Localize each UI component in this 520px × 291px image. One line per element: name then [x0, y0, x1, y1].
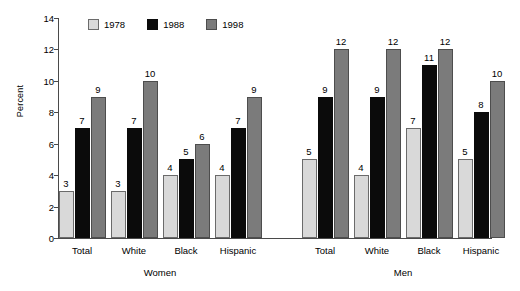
legend-item: 1998 [206, 19, 243, 30]
x-category-label: White [365, 245, 389, 256]
bar [474, 112, 489, 238]
x-category-label: Hispanic [463, 245, 499, 256]
y-tick-label: 12 [32, 44, 54, 55]
bar-value-label: 7 [79, 115, 84, 126]
y-axis-ticks: 02468101214 [29, 0, 54, 291]
bar-value-label: 4 [358, 162, 363, 173]
bar [179, 159, 194, 238]
bar [111, 191, 126, 238]
x-group-label: Men [394, 267, 412, 278]
bar-value-label: 3 [63, 178, 68, 189]
legend-label: 1978 [104, 20, 125, 30]
bar [59, 191, 74, 238]
x-axis-line [58, 238, 492, 239]
legend-label: 1998 [222, 20, 243, 30]
bar-value-label: 10 [492, 68, 503, 79]
y-axis-line [58, 18, 59, 239]
bar-value-label: 12 [336, 36, 347, 47]
bar-value-label: 5 [306, 146, 311, 157]
bar-value-label: 11 [424, 52, 434, 63]
y-tick-label: 6 [32, 138, 54, 149]
bar-value-label: 4 [167, 162, 172, 173]
bar [75, 128, 90, 238]
bar [143, 81, 158, 238]
x-category-label: Total [315, 245, 335, 256]
legend-item: 1978 [88, 19, 125, 30]
bar [318, 97, 333, 238]
plot-area [58, 18, 492, 238]
legend-swatch-icon [206, 19, 217, 30]
legend-label: 1988 [163, 20, 184, 30]
bar [127, 128, 142, 238]
bar [354, 175, 369, 238]
x-category-label: Hispanic [220, 245, 256, 256]
bar [163, 175, 178, 238]
bar-value-label: 5 [462, 146, 467, 157]
bar-value-label: 6 [199, 131, 204, 142]
legend-item: 1988 [147, 19, 184, 30]
bar-value-label: 4 [219, 162, 224, 173]
bar [386, 49, 401, 238]
bar [422, 65, 437, 238]
y-tick-label: 2 [32, 201, 54, 212]
bar [370, 97, 385, 238]
bar-chart: Percent 02468101214 197819881998 379Tota… [0, 0, 520, 291]
bar-value-label: 9 [251, 84, 256, 95]
y-tick-label: 14 [32, 13, 54, 24]
bar-value-label: 3 [115, 178, 120, 189]
bar-value-label: 9 [322, 84, 327, 95]
legend-swatch-icon [147, 19, 158, 30]
bar-value-label: 9 [374, 84, 379, 95]
bar [406, 128, 421, 238]
bar-value-label: 7 [235, 115, 240, 126]
bar [438, 49, 453, 238]
y-tick-label: 8 [32, 107, 54, 118]
bar-value-label: 12 [440, 36, 451, 47]
bar-value-label: 9 [95, 84, 100, 95]
bar [231, 128, 246, 238]
y-tick-label: 0 [32, 233, 54, 244]
bar-value-label: 7 [410, 115, 415, 126]
x-category-label: Black [417, 245, 440, 256]
bar-value-label: 5 [183, 146, 188, 157]
bar-value-label: 8 [478, 99, 483, 110]
bar [334, 49, 349, 238]
bar [458, 159, 473, 238]
x-category-label: Black [174, 245, 197, 256]
x-category-label: White [122, 245, 146, 256]
chart-legend: 197819881998 [88, 19, 265, 30]
bar [490, 81, 505, 238]
bar [195, 144, 210, 238]
legend-swatch-icon [88, 19, 99, 30]
bar-value-label: 12 [388, 36, 399, 47]
y-axis-title: Percent [15, 51, 25, 151]
bar [247, 97, 262, 238]
bar [215, 175, 230, 238]
x-group-label: Women [144, 267, 177, 278]
bar [302, 159, 317, 238]
bar-value-label: 7 [131, 115, 136, 126]
bar-value-label: 10 [145, 68, 156, 79]
x-category-label: Total [72, 245, 92, 256]
y-tick-label: 4 [32, 170, 54, 181]
bar [91, 97, 106, 238]
y-tick-label: 10 [32, 75, 54, 86]
